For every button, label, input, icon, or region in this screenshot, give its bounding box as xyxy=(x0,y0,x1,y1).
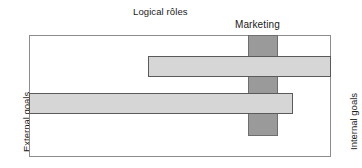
axis-label-internal-goals: Internal goals xyxy=(348,93,359,150)
logical-roles-diagram: Logical rôles Marketing External goals I… xyxy=(0,0,362,168)
bar-lower-horizontal xyxy=(29,93,293,114)
diagram-title: Logical rôles xyxy=(133,6,188,17)
bar-upper-horizontal xyxy=(148,56,331,77)
bar-marketing-vertical xyxy=(248,35,278,136)
marketing-bar-label: Marketing xyxy=(235,19,280,30)
